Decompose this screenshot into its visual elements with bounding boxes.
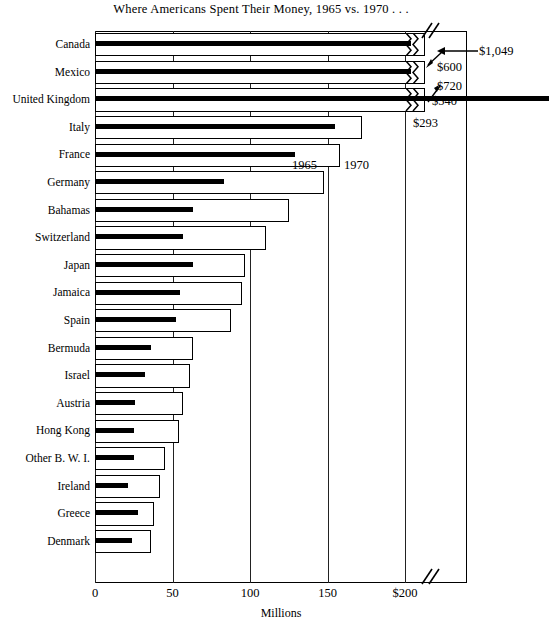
callout-pointer-canada-icon: [424, 50, 446, 70]
bar-1965: [95, 400, 135, 405]
category-label: Spain: [64, 311, 90, 330]
axis-break-bottom-icon: [418, 568, 444, 586]
bar-1965: [95, 428, 134, 433]
x-axis-title: Millions: [95, 606, 467, 621]
bar-row: Mexico: [95, 59, 467, 87]
x-tick-label: 50: [166, 586, 179, 601]
category-label: Germany: [47, 173, 90, 192]
bar-row: Hong Kong: [95, 417, 467, 445]
bar-1965: [95, 179, 224, 184]
bar-row: Spain: [95, 307, 467, 335]
chart-title: Where Americans Spent Their Money, 1965 …: [0, 2, 522, 17]
category-label: United Kingdom: [12, 90, 90, 109]
category-label: Mexico: [55, 63, 90, 82]
callout-uk-1965: $293: [413, 116, 438, 131]
bar-1965: [95, 290, 180, 295]
category-label: Jamaica: [53, 283, 90, 302]
category-label: Italy: [69, 118, 90, 137]
callout-pointer-mexico-icon: [424, 84, 446, 106]
bar-1965: [95, 69, 411, 74]
category-label: Japan: [64, 256, 90, 275]
bar-row: Denmark: [95, 528, 467, 556]
category-label: Austria: [56, 394, 90, 413]
bar-row: Ireland: [95, 473, 467, 501]
bar-1965: [95, 483, 128, 488]
callout-canada-1970: $1,049: [479, 44, 513, 59]
bar-1965: [95, 455, 134, 460]
x-tick-label: 100: [241, 586, 260, 601]
bar-1965: [95, 262, 193, 267]
category-label: Denmark: [47, 532, 90, 551]
category-label: Canada: [56, 35, 90, 54]
bar-row: Italy: [95, 114, 467, 142]
bar-1965: [95, 152, 295, 157]
bar-row: Israel: [95, 362, 467, 390]
legend-label-1970: 1970: [344, 158, 369, 173]
category-label: Bermuda: [48, 339, 90, 358]
bar-1965: [95, 510, 138, 515]
bar-row: Jamaica: [95, 279, 467, 307]
category-label: Ireland: [57, 477, 90, 496]
bar-row: United Kingdom: [95, 86, 467, 114]
bar-row: Bermuda: [95, 335, 467, 363]
category-label: Bahamas: [48, 201, 90, 220]
bar-row: Other B. W. I.: [95, 445, 467, 473]
bar-row: Austria: [95, 390, 467, 418]
bar-row: Bahamas: [95, 197, 467, 225]
category-label: Greece: [57, 504, 90, 523]
bar-1965: [95, 96, 549, 101]
bar-1965: [95, 538, 132, 543]
bar-1965: [95, 207, 193, 212]
bar-row: France: [95, 141, 467, 169]
x-tick-label: $200: [393, 586, 418, 601]
category-label: Hong Kong: [36, 421, 90, 440]
bar-row: Japan: [95, 252, 467, 280]
category-label: Other B. W. I.: [25, 449, 90, 468]
category-label: France: [59, 145, 90, 164]
x-tick-label: 150: [318, 586, 337, 601]
category-label: Israel: [64, 366, 90, 385]
bar-1965: [95, 345, 151, 350]
bar-1965: [95, 317, 176, 322]
axis-break-top-icon: [418, 22, 444, 40]
legend-label-1965: 1965: [292, 158, 317, 173]
bar-1965: [95, 372, 145, 377]
bar-row: Switzerland: [95, 224, 467, 252]
bar-row: Germany: [95, 169, 467, 197]
category-label: Switzerland: [35, 228, 90, 247]
bar-1965: [95, 124, 335, 129]
bar-1965: [95, 234, 183, 239]
x-tick-label: 0: [92, 586, 98, 601]
bar-1965: [95, 41, 411, 46]
bar-row: Canada: [95, 31, 467, 59]
bar-row: Greece: [95, 500, 467, 528]
